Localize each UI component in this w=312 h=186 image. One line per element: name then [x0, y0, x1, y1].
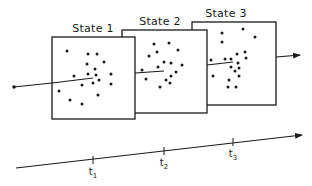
data-point [81, 103, 84, 106]
data-point [87, 53, 90, 56]
data-point [66, 50, 69, 53]
data-point [69, 99, 72, 102]
data-point [228, 79, 231, 82]
state-1-panel [52, 37, 135, 119]
exit-arrow [276, 55, 300, 57]
data-point [103, 61, 106, 64]
data-point [235, 86, 238, 89]
data-point [234, 70, 237, 73]
data-point [238, 67, 241, 70]
data-point [224, 58, 227, 61]
time-tick-label-2: t2 [160, 157, 168, 171]
data-point [221, 41, 224, 44]
data-point [165, 79, 168, 82]
data-point [94, 68, 97, 71]
data-point [81, 84, 84, 87]
data-point [221, 32, 224, 35]
data-point [170, 62, 173, 65]
state-2-label: State 2 [139, 15, 181, 28]
entry-trajectory [14, 83, 52, 87]
data-point [95, 74, 98, 77]
data-point [96, 53, 99, 56]
data-point [230, 58, 233, 61]
data-point [237, 62, 240, 65]
data-point [230, 66, 233, 69]
data-point [73, 75, 76, 78]
data-point [141, 69, 144, 72]
data-point [163, 61, 166, 64]
data-point [58, 90, 61, 93]
data-point [177, 49, 180, 52]
data-point [244, 51, 247, 54]
data-point [168, 42, 171, 45]
data-point [110, 73, 113, 76]
data-point [170, 75, 173, 78]
data-point [169, 82, 172, 85]
data-point [145, 78, 148, 81]
data-point [86, 63, 89, 66]
state-box [52, 37, 135, 119]
data-point [157, 66, 160, 69]
data-point [98, 79, 101, 82]
data-point [242, 28, 245, 31]
data-point [236, 53, 239, 56]
time-tick-label-1: t1 [89, 166, 97, 180]
data-point [210, 59, 213, 62]
state-1-label: State 1 [72, 22, 114, 35]
data-point [175, 71, 178, 74]
state-3-label: State 3 [205, 7, 247, 20]
data-point [148, 55, 151, 58]
data-point [87, 73, 90, 76]
data-point [227, 86, 230, 89]
start-point [12, 85, 16, 89]
data-point [97, 94, 100, 97]
data-point [159, 86, 162, 89]
data-point [156, 51, 159, 54]
data-point [254, 36, 257, 39]
data-point [212, 75, 215, 78]
data-point [153, 43, 156, 46]
data-point [245, 57, 248, 60]
time-tick-label-3: t3 [229, 148, 237, 162]
data-point [110, 83, 113, 86]
data-point [181, 64, 184, 67]
data-point [92, 82, 95, 85]
data-point [238, 75, 241, 78]
